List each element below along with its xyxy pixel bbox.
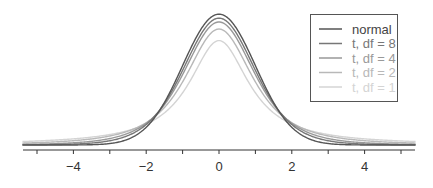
x-tick-label: 4 [361, 159, 368, 174]
legend-label: t, df = 1 [352, 80, 396, 95]
legend-label: normal [352, 22, 392, 37]
x-axis-ticks: −4−2024 [37, 150, 401, 174]
legend-label: t, df = 4 [352, 51, 396, 66]
x-tick-label: 2 [288, 159, 295, 174]
x-tick-label: 0 [215, 159, 222, 174]
legend-label: t, df = 2 [352, 65, 396, 80]
density-chart: −4−2024 normalt, df = 8t, df = 4t, df = … [0, 0, 433, 188]
legend-label: t, df = 8 [352, 36, 396, 51]
x-tick-label: −4 [66, 159, 81, 174]
legend: normalt, df = 8t, df = 4t, df = 2t, df =… [311, 15, 398, 102]
x-tick-label: −2 [139, 159, 154, 174]
